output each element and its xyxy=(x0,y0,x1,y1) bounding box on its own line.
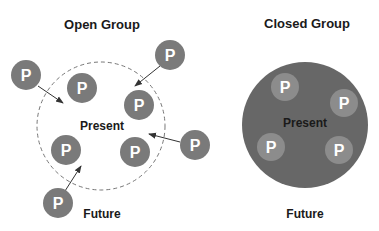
svg-text:P: P xyxy=(165,47,176,64)
member-node: P xyxy=(124,90,154,120)
svg-text:P: P xyxy=(77,80,88,97)
closed-future-label: Future xyxy=(286,207,324,221)
closed-group: Closed Group P P P P Present Future xyxy=(242,16,368,221)
svg-text:P: P xyxy=(266,139,277,156)
incoming-member-node: P xyxy=(155,40,185,70)
open-present-label: Present xyxy=(80,119,124,133)
arrow-join-top xyxy=(135,66,160,86)
svg-text:P: P xyxy=(134,97,145,114)
incoming-member-node: P xyxy=(11,60,41,90)
member-node: P xyxy=(271,73,299,101)
member-node: P xyxy=(325,136,353,164)
member-node: P xyxy=(257,133,285,161)
svg-text:P: P xyxy=(61,142,72,159)
arrow-join-left xyxy=(38,86,63,103)
closed-present-label: Present xyxy=(283,116,327,130)
member-node: P xyxy=(330,89,358,117)
member-node: P xyxy=(51,135,81,165)
open-future-label: Future xyxy=(83,207,121,221)
svg-text:P: P xyxy=(190,137,201,154)
arrow-join-bottom xyxy=(65,166,81,191)
member-node: P xyxy=(120,137,150,167)
svg-text:P: P xyxy=(53,195,64,212)
open-group-title: Open Group xyxy=(64,17,140,32)
svg-text:P: P xyxy=(21,67,32,84)
svg-text:P: P xyxy=(334,142,345,159)
closed-group-title: Closed Group xyxy=(264,16,350,31)
svg-text:P: P xyxy=(130,144,141,161)
incoming-member-node: P xyxy=(43,188,73,218)
svg-text:P: P xyxy=(339,95,350,112)
open-group: Open Group Present Future P P P P P xyxy=(11,17,210,221)
member-node: P xyxy=(67,73,97,103)
svg-text:P: P xyxy=(280,79,291,96)
incoming-member-node: P xyxy=(180,130,210,160)
group-diagram: Open Group Present Future P P P P P xyxy=(0,0,379,231)
